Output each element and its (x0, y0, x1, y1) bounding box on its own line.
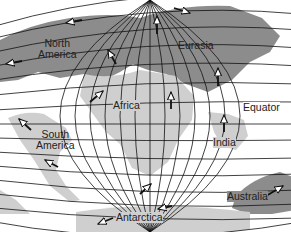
south-america-landmass (8, 113, 80, 202)
label-north-america-line2: America (38, 49, 77, 60)
label-north-america: North America (38, 38, 77, 59)
label-south-america: South America (36, 129, 75, 150)
label-india: India (213, 137, 236, 148)
label-south-america-line2: America (36, 140, 75, 151)
arrow-atlantic (140, 184, 151, 194)
label-north-america-line1: North (38, 38, 77, 49)
label-eurasia: Eurasia (178, 40, 214, 51)
label-australia: Australia (227, 191, 268, 202)
label-antarctica: Antarctica (116, 212, 163, 223)
label-south-america-line1: South (36, 129, 75, 140)
label-equator: Equator (243, 102, 280, 113)
label-africa: Africa (113, 100, 140, 111)
